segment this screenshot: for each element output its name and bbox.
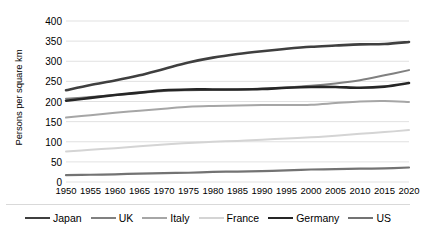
- legend-item-italy[interactable]: Italy: [142, 212, 189, 224]
- y-tick-label: 400: [20, 16, 62, 27]
- y-tick-label: 250: [20, 76, 62, 87]
- y-axis-tick-labels: 050100150200250300350400: [20, 0, 62, 200]
- series-line-germany: [66, 83, 409, 101]
- legend-item-us[interactable]: US: [348, 212, 391, 224]
- legend-item-japan[interactable]: Japan: [25, 212, 82, 224]
- legend-item-uk[interactable]: UK: [91, 212, 134, 224]
- plot-area: [66, 21, 409, 182]
- y-tick-label: 300: [20, 56, 62, 67]
- series-line-italy: [66, 101, 409, 118]
- y-tick-label: 50: [20, 156, 62, 167]
- chart-legend: JapanUKItalyFranceGermanyUS: [0, 207, 416, 229]
- legend-swatch-germany: [268, 217, 293, 219]
- legend-divider: [6, 204, 410, 205]
- y-tick-label: 150: [20, 116, 62, 127]
- series-line-japan: [66, 42, 409, 90]
- x-axis-tick-labels: 1950195519601965197019751980198519901995…: [66, 185, 409, 201]
- legend-label: US: [376, 212, 391, 224]
- legend-swatch-italy: [142, 217, 167, 219]
- legend-swatch-japan: [25, 217, 50, 219]
- legend-label: UK: [119, 212, 134, 224]
- legend-item-germany[interactable]: Germany: [268, 212, 339, 224]
- y-tick-label: 100: [20, 136, 62, 147]
- series-line-france: [66, 130, 409, 151]
- x-tick-label: 2020: [394, 185, 424, 196]
- legend-label: France: [227, 212, 260, 224]
- legend-item-france[interactable]: France: [199, 212, 260, 224]
- legend-label: Italy: [170, 212, 189, 224]
- series-line-us: [66, 168, 409, 176]
- plot-svg: [66, 21, 409, 182]
- legend-swatch-us: [348, 217, 373, 219]
- series-lines: [66, 42, 409, 175]
- legend-label: Germany: [296, 212, 339, 224]
- legend-swatch-france: [199, 217, 224, 219]
- legend-swatch-uk: [91, 217, 116, 219]
- y-tick-label: 200: [20, 96, 62, 107]
- y-tick-label: 350: [20, 36, 62, 47]
- legend-label: Japan: [53, 212, 82, 224]
